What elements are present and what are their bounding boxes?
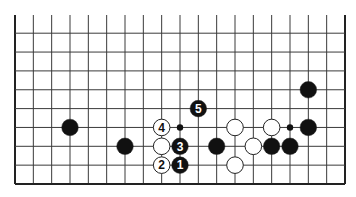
white-stone-icon — [227, 119, 244, 136]
white-stone — [263, 119, 280, 136]
move-number: 5 — [195, 102, 202, 116]
white-stone — [245, 138, 262, 155]
white-stone-icon — [263, 119, 280, 136]
black-stone-icon — [62, 119, 79, 136]
white-stone — [227, 119, 244, 136]
go-board-diagram: 42315 — [0, 0, 356, 197]
white-stone — [227, 157, 244, 174]
black-stone — [117, 138, 134, 155]
black-stone — [208, 138, 225, 155]
black-stone — [263, 138, 280, 155]
black-stone-3: 3 — [172, 138, 189, 155]
white-stone-icon — [227, 157, 244, 174]
white-stone-4: 4 — [153, 119, 170, 136]
black-stone-1: 1 — [172, 157, 189, 174]
move-number: 4 — [158, 121, 165, 135]
star-point-icon — [287, 124, 293, 130]
black-stone-icon — [300, 119, 317, 136]
black-stone-5: 5 — [190, 100, 207, 117]
white-stone — [153, 138, 170, 155]
black-stone — [62, 119, 79, 136]
white-stone-icon — [153, 138, 170, 155]
white-stone-icon — [245, 138, 262, 155]
move-number: 2 — [158, 158, 165, 172]
star-point-icon — [177, 124, 183, 130]
black-stone-icon — [208, 138, 225, 155]
move-number: 1 — [177, 158, 184, 172]
black-stone — [282, 138, 299, 155]
black-stone — [300, 81, 317, 98]
black-stone-icon — [300, 81, 317, 98]
black-stone-icon — [263, 138, 280, 155]
move-number: 3 — [177, 140, 184, 154]
white-stone-2: 2 — [153, 157, 170, 174]
go-board: 42315 — [0, 0, 356, 197]
black-stone-icon — [282, 138, 299, 155]
black-stone — [300, 119, 317, 136]
black-stone-icon — [117, 138, 134, 155]
